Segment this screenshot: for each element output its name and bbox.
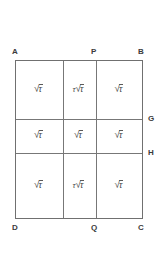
vertex-label-c: C — [138, 224, 144, 232]
vertex-label-q: Q — [91, 224, 97, 232]
vertical-divider-2 — [96, 61, 97, 218]
vertex-label-g: G — [148, 115, 154, 123]
vertical-divider-1 — [63, 61, 64, 218]
vertex-label-b: B — [138, 48, 144, 56]
vertex-label-h: H — [148, 149, 154, 157]
vertex-label-a: A — [12, 48, 18, 56]
horizontal-divider-1 — [16, 119, 142, 120]
horizontal-divider-2 — [16, 153, 142, 154]
geometry-figure: √τ τ √τ √τ √τ √τ — [0, 0, 162, 255]
vertex-label-p: P — [91, 48, 96, 56]
grid-rectangle — [15, 60, 143, 219]
vertex-label-d: D — [12, 224, 18, 232]
